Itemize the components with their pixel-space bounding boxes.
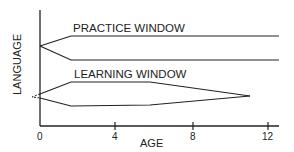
learning-window-label: LEARNING WINDOW [74,68,187,80]
learning-window-upper [40,82,250,96]
language-window-diagram: PRACTICE WINDOW LEARNING WINDOW LANGUAGE… [0,0,294,152]
practice-window-lower [40,46,279,60]
learning-window-dashed-origin [32,94,40,98]
practice-window-upper [40,36,279,46]
tick-label-4: 4 [112,131,118,142]
tick-label-12: 12 [262,131,274,142]
practice-window-label: PRACTICE WINDOW [73,22,185,34]
x-axis-label: AGE [140,137,163,149]
y-axis-label: LANGUAGE [11,34,23,95]
tick-label-8: 8 [190,131,196,142]
learning-window-lower [40,96,250,106]
tick-label-0: 0 [37,131,43,142]
